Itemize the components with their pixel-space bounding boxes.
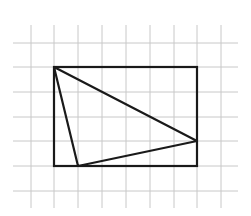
grid-diagram [0, 0, 251, 216]
grid-lines [13, 25, 238, 208]
